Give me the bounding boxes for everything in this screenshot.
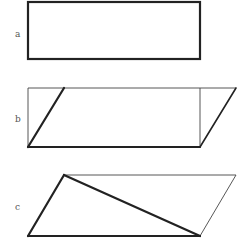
panel-b-label: b [15, 114, 21, 124]
panel-c-label: c [15, 202, 20, 212]
right-diagonal-b [200, 88, 236, 147]
panel-c: c [15, 175, 236, 236]
panel-a-label: a [15, 29, 21, 39]
right-edge-c [200, 175, 236, 236]
left-edge-c [28, 175, 64, 236]
geometry-figure: a b c [0, 0, 240, 250]
left-diagonal-b [28, 88, 64, 147]
rectangle-a [28, 2, 200, 59]
panel-b: b [15, 88, 236, 147]
diagonal-c [64, 175, 200, 236]
panel-a: a [15, 2, 200, 59]
